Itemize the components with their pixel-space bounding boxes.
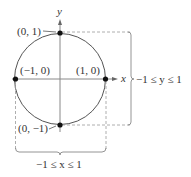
y-range-label: −1 ≤ y ≤ 1 — [136, 73, 182, 85]
point-label-0-1: (0, 1) — [17, 25, 41, 38]
y-axis-label: y — [56, 5, 62, 17]
x-range-label: −1 ≤ x ≤ 1 — [36, 158, 82, 170]
point-1-0 — [103, 76, 108, 81]
x-range-dashed-lines — [16, 81, 107, 150]
point-0-1 — [57, 30, 62, 35]
y-range-brace — [128, 32, 134, 125]
unit-circle-diagram: y x −1 ≤ y ≤ 1 −1 ≤ x ≤ 1 (0, 1) (−1, 0)… — [0, 0, 191, 177]
point-label-1-0: (1, 0) — [76, 64, 100, 77]
y-axis-arrow-icon — [58, 19, 62, 25]
x-axis-label: x — [120, 72, 126, 84]
point-label-0-neg1: (0, −1) — [18, 122, 48, 135]
leader-line-0-1 — [43, 31, 56, 32]
x-axis-arrow-icon — [112, 77, 118, 81]
point-0-neg1 — [57, 122, 62, 127]
point-neg1-0 — [13, 76, 18, 81]
leader-line-0-neg1 — [49, 126, 56, 129]
x-range-brace — [16, 148, 107, 155]
point-label-neg1-0: (−1, 0) — [20, 64, 50, 77]
